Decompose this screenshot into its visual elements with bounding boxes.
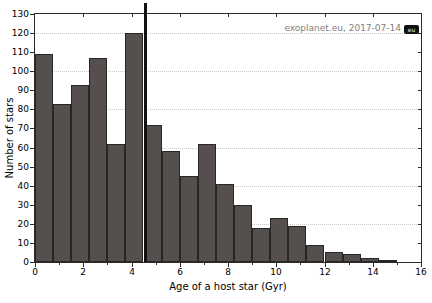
marker-line — [144, 3, 147, 262]
y-axis-tick — [30, 186, 34, 187]
x-axis-minor-tick — [397, 263, 398, 265]
x-tick-label: 0 — [25, 267, 45, 278]
x-axis-top-tick — [276, 14, 277, 17]
y-axis-tick — [30, 14, 34, 15]
x-tick-label: 14 — [363, 267, 383, 278]
y-axis-right-tick — [418, 186, 421, 187]
y-axis-right-tick — [418, 243, 421, 244]
x-axis-minor-tick — [107, 263, 108, 265]
y-axis-right-tick — [418, 52, 421, 53]
histogram-bar — [288, 226, 306, 262]
y-axis-tick — [30, 205, 34, 206]
y-axis-tick — [30, 148, 34, 149]
histogram-bar — [270, 218, 288, 262]
y-tick-label: 110 — [0, 47, 29, 58]
y-tick-label: 70 — [0, 123, 29, 134]
histogram-bar — [379, 260, 397, 262]
histogram-bar — [234, 205, 252, 262]
x-tick-label: 16 — [411, 267, 431, 278]
y-axis-tick — [30, 224, 34, 225]
histogram-bar — [361, 258, 379, 262]
x-axis-minor-tick — [349, 263, 350, 265]
x-axis-minor-tick — [156, 263, 157, 265]
x-axis-top-tick — [83, 14, 84, 17]
x-tick-label: 8 — [218, 267, 238, 278]
y-tick-label: 120 — [0, 28, 29, 39]
x-tick-label: 2 — [73, 267, 93, 278]
y-axis-tick — [30, 90, 34, 91]
y-tick-label: 10 — [0, 238, 29, 249]
y-tick-label: 100 — [0, 66, 29, 77]
histogram-bar — [162, 151, 180, 262]
histogram-bar — [343, 254, 361, 262]
histogram-bar — [198, 144, 216, 262]
y-tick-label: 130 — [0, 9, 29, 20]
histogram-bar — [71, 85, 89, 262]
y-axis-right-tick — [418, 205, 421, 206]
x-axis-minor-tick — [204, 263, 205, 265]
x-axis-title: Age of a host star (Gyr) — [169, 281, 287, 292]
y-axis-tick — [30, 243, 34, 244]
x-axis-minor-tick — [300, 263, 301, 265]
histogram-bar — [306, 245, 324, 262]
x-axis-top-tick — [228, 14, 229, 17]
histogram-bar — [125, 33, 143, 262]
x-tick-label: 10 — [266, 267, 286, 278]
plot-area — [34, 13, 422, 263]
histogram-bar — [53, 104, 71, 262]
y-axis-tick — [30, 52, 34, 53]
y-axis-right-tick — [418, 128, 421, 129]
y-axis-tick — [30, 262, 34, 263]
y-axis-right-tick — [418, 90, 421, 91]
histogram-bar — [180, 176, 198, 262]
histogram-bar — [252, 228, 270, 262]
y-axis-right-tick — [418, 71, 421, 72]
y-axis-right-tick — [418, 167, 421, 168]
y-tick-label: 80 — [0, 104, 29, 115]
y-axis-right-tick — [418, 109, 421, 110]
y-axis-right-tick — [418, 148, 421, 149]
y-axis-tick — [30, 71, 34, 72]
y-axis-tick — [30, 109, 34, 110]
histogram-bar — [35, 54, 53, 262]
histogram-bar — [216, 184, 234, 262]
y-axis-right-tick — [418, 224, 421, 225]
y-axis-tick — [30, 167, 34, 168]
y-tick-label: 60 — [0, 143, 29, 154]
y-tick-label: 50 — [0, 162, 29, 173]
y-tick-label: 0 — [0, 257, 29, 268]
watermark-badge-icon: eu — [404, 25, 419, 34]
histogram-figure: exoplanet.eu, 2017-07-14 eu Age of a hos… — [0, 0, 432, 303]
y-axis-tick — [30, 33, 34, 34]
x-tick-label: 12 — [315, 267, 335, 278]
x-axis-top-tick — [180, 14, 181, 17]
gridline — [35, 33, 421, 34]
x-axis-minor-tick — [59, 263, 60, 265]
histogram-bar — [107, 144, 125, 262]
y-tick-label: 30 — [0, 200, 29, 211]
x-axis-top-tick — [325, 14, 326, 17]
x-axis-top-tick — [373, 14, 374, 17]
histogram-bar — [89, 58, 107, 262]
x-axis-minor-tick — [252, 263, 253, 265]
x-tick-label: 4 — [122, 267, 142, 278]
watermark-text: exoplanet.eu, 2017-07-14 — [284, 23, 401, 33]
y-axis-tick — [30, 128, 34, 129]
x-axis-top-tick — [132, 14, 133, 17]
histogram-bar — [325, 252, 343, 262]
y-tick-label: 40 — [0, 181, 29, 192]
x-tick-label: 6 — [170, 267, 190, 278]
y-tick-label: 90 — [0, 85, 29, 96]
y-tick-label: 20 — [0, 219, 29, 230]
